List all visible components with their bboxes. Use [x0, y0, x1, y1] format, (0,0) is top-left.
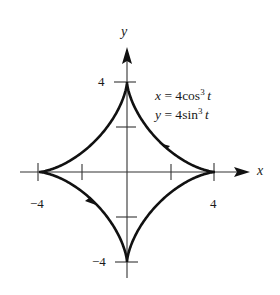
equation-x-fn: cos	[182, 88, 200, 103]
equation-y-var: t	[205, 107, 209, 122]
x-tick-label-4: 4	[210, 197, 217, 210]
x-tick-label-neg4: −4	[30, 197, 44, 210]
x-axis	[20, 163, 250, 181]
equation-y-fn: sin	[182, 107, 198, 122]
astroid-diagram	[0, 0, 280, 295]
equation-x-var: t	[207, 88, 211, 103]
y-tick-label-neg4: −4	[92, 255, 106, 268]
equation-x-eq: = 4	[161, 88, 182, 103]
equation-x: x = 4cos3 t	[155, 89, 211, 103]
equation-x-exp: 3	[200, 87, 205, 97]
y-axis-label: y	[121, 25, 127, 39]
equation-y: y = 4sin3 t	[155, 108, 209, 122]
x-axis-label: x	[257, 164, 263, 178]
equation-y-exp: 3	[198, 106, 203, 116]
y-axis	[114, 47, 138, 278]
equation-y-eq: = 4	[161, 107, 182, 122]
y-tick-label-4: 4	[98, 75, 105, 88]
